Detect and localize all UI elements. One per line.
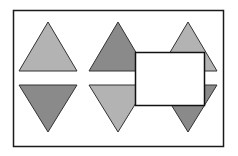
diagram-canvas [0,0,238,156]
occluding-box [136,53,205,106]
